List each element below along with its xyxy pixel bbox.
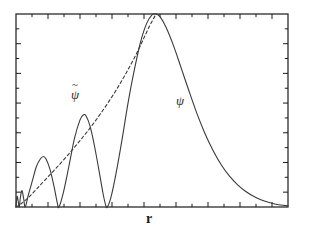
- all-electron-wavefunction-label: ψ: [176, 94, 184, 107]
- plot-frame: [16, 14, 288, 207]
- plot-canvas: [0, 0, 309, 235]
- x-axis-label: r: [146, 212, 152, 226]
- curve-all-electron-wavefunction: [16, 14, 288, 208]
- pseudo-wavefunction-label: ~ ψ: [71, 88, 79, 101]
- wavefunction-figure: ~ ψ ψ r: [0, 0, 309, 235]
- curve-pseudo-wavefunction: [16, 14, 156, 207]
- axis-ticks: [16, 14, 288, 207]
- tilde-accent-icon: ~: [72, 79, 78, 90]
